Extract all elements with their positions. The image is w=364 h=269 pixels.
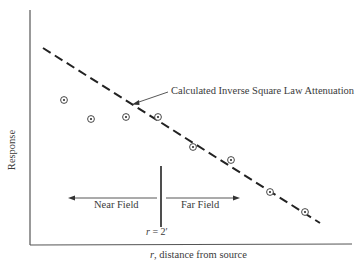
annotation-arrow xyxy=(136,92,168,103)
near-field-arrowhead-icon xyxy=(68,196,75,201)
circled-dot-marker-icon xyxy=(88,116,95,123)
boundary-label: r = 2′ xyxy=(146,226,168,237)
x-axis-label-rest: , distance from source xyxy=(154,249,247,260)
near-field-label: Near Field xyxy=(94,199,139,210)
circled-dot-marker-icon xyxy=(61,97,68,104)
x-axis-label: r, distance from source xyxy=(150,249,247,260)
inverse-square-annotation: Calculated Inverse Square Law Attenuatio… xyxy=(171,85,354,96)
chart-canvas xyxy=(0,0,364,269)
circled-dot-marker-icon xyxy=(302,209,309,216)
x-axis xyxy=(30,244,352,245)
circled-dot-marker-icon xyxy=(228,157,235,164)
inverse-square-law-line xyxy=(43,48,320,223)
far-field-arrowhead-icon xyxy=(233,196,240,201)
circled-dot-marker-icon xyxy=(267,189,274,196)
circled-dot-marker-icon xyxy=(155,114,162,121)
circled-dot-marker-icon xyxy=(190,144,197,151)
far-field-label: Far Field xyxy=(181,199,219,210)
circled-dot-marker-icon xyxy=(123,114,130,121)
y-axis-label: Response xyxy=(6,130,17,170)
annotation-arrowhead-icon xyxy=(132,100,140,105)
